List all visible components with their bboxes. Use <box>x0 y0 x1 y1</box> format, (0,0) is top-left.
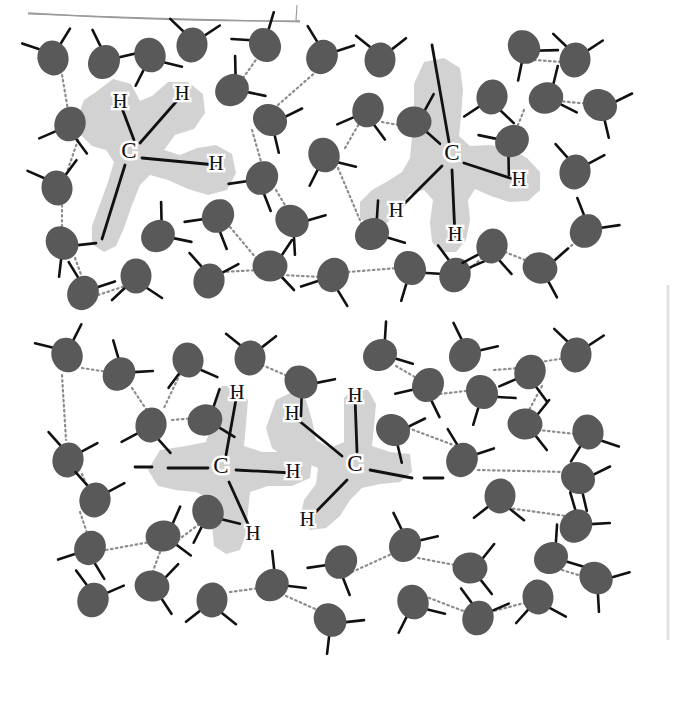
hydrogen-label: H <box>388 198 403 222</box>
water-oxygen <box>312 253 355 298</box>
water-oxygen <box>96 351 142 398</box>
water-molecule <box>185 188 250 251</box>
water-oxygen <box>558 335 595 375</box>
water-molecule <box>253 240 295 290</box>
water-oxygen <box>573 555 620 601</box>
water-molecule <box>452 364 516 425</box>
water-molecule <box>384 577 445 633</box>
hydrogen-bond <box>62 375 66 440</box>
water-oxygen <box>39 168 76 208</box>
hydrogen-label: H <box>245 521 260 545</box>
hydrogen-bond <box>106 542 150 550</box>
hydrogen-label: H <box>208 151 223 175</box>
water-molecule <box>186 580 239 626</box>
water-oxygen <box>557 40 594 80</box>
water-oxygen <box>39 220 85 267</box>
water-oxygen <box>443 332 487 378</box>
water-molecule <box>517 238 570 297</box>
hydrogen-label: H <box>112 89 127 113</box>
hydrogen-bond <box>534 60 562 62</box>
water-molecule <box>129 201 192 266</box>
water-molecule <box>573 74 634 138</box>
water-oxygen <box>209 67 255 112</box>
hydrogen-label: H <box>299 507 314 531</box>
water-molecule <box>551 447 612 511</box>
water-molecule <box>63 569 124 625</box>
solute-layer: HHHCHHHC <box>135 380 443 554</box>
hydrogen-bond <box>230 227 256 258</box>
water-oxygen <box>82 39 126 85</box>
water-molecule <box>34 324 95 380</box>
water-molecule <box>547 327 603 377</box>
water-molecule <box>513 577 566 623</box>
water-molecule <box>395 358 459 419</box>
hydrogen-bond <box>252 130 262 165</box>
water-oxygen <box>555 151 594 193</box>
water-oxygen <box>388 245 432 291</box>
water-molecule <box>450 541 496 594</box>
molecular-diagram: HHHCHHHCHHHCHHHC <box>0 0 674 727</box>
water-molecule <box>179 251 238 304</box>
water-oxygen <box>174 25 211 65</box>
water-oxygen <box>307 597 353 644</box>
hydrogen-bond <box>345 122 360 148</box>
water-molecule <box>121 30 182 86</box>
water-oxygen <box>318 539 363 585</box>
hydrogen-bond <box>62 75 68 110</box>
water-oxygen <box>62 271 105 316</box>
water-molecule <box>352 320 413 384</box>
water-molecule <box>243 89 304 153</box>
hydrogen-bond <box>538 430 576 434</box>
carbon-label: C <box>347 451 362 476</box>
water-molecule <box>505 397 551 450</box>
water-oxygen <box>524 77 567 118</box>
water-oxygen <box>253 251 288 282</box>
water-molecule <box>300 590 365 654</box>
water-molecule <box>560 408 619 461</box>
water-molecule <box>499 347 560 403</box>
water-molecule <box>555 196 620 259</box>
water-molecule <box>27 160 83 210</box>
water-molecule <box>295 130 356 186</box>
hydrogen-label: H <box>447 222 462 246</box>
water-oxygen <box>121 259 152 294</box>
water-oxygen <box>519 248 561 287</box>
water-oxygen <box>46 333 87 376</box>
water-oxygen <box>553 503 599 550</box>
water-molecule <box>374 511 438 572</box>
hydrogen-bond <box>282 275 322 277</box>
water-molecule <box>22 29 81 82</box>
water-oxygen <box>69 526 112 571</box>
water-molecule <box>308 534 373 597</box>
water-molecule <box>464 76 520 126</box>
water-molecule <box>223 332 276 378</box>
water-oxygen <box>568 411 607 453</box>
water-molecule <box>161 338 217 388</box>
hydrogen-label: H <box>174 81 189 105</box>
water-oxygen <box>555 456 601 500</box>
water-molecule <box>112 259 162 301</box>
methane-in-water-panel: HHHCHHHC <box>22 12 634 319</box>
water-oxygen <box>129 33 170 76</box>
water-oxygen <box>509 350 550 393</box>
water-oxygen <box>243 22 287 68</box>
water-molecule <box>301 249 364 308</box>
water-oxygen <box>577 83 623 127</box>
hydrogen-bond <box>338 168 362 225</box>
water-molecule <box>65 470 124 523</box>
water-oxygen <box>301 35 344 80</box>
water-molecule <box>52 260 115 319</box>
hydrogen-bond <box>163 374 180 410</box>
carbon-label: C <box>121 138 136 163</box>
water-oxygen <box>357 333 403 377</box>
water-molecule <box>545 142 604 195</box>
water-oxygen <box>269 198 316 244</box>
water-oxygen <box>392 580 433 623</box>
hydrogen-label: H <box>285 459 300 483</box>
water-oxygen <box>441 438 484 483</box>
hydrogen-label: H <box>284 401 299 425</box>
carbon-label: C <box>444 140 459 165</box>
carbon-label: C <box>213 453 228 478</box>
water-oxygen <box>135 213 181 258</box>
water-molecule <box>353 34 406 80</box>
